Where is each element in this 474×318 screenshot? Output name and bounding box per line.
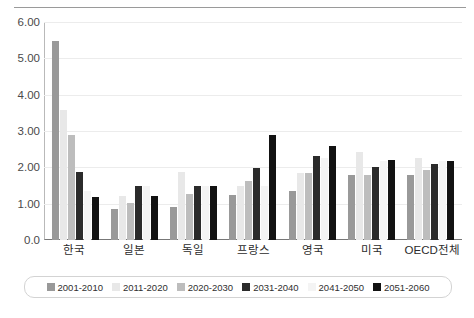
bar[interactable] — [76, 172, 83, 240]
legend-item[interactable]: 2001-2010 — [47, 282, 103, 293]
bar[interactable] — [407, 175, 414, 240]
bar[interactable] — [237, 186, 244, 241]
bar[interactable] — [329, 146, 336, 240]
bar[interactable] — [423, 170, 430, 240]
bar-groups — [44, 22, 462, 240]
plot-area — [44, 22, 462, 240]
x-axis-tick-label: 일본 — [104, 241, 164, 261]
bar-group — [164, 22, 223, 240]
legend-item[interactable]: 2041-2050 — [308, 282, 364, 293]
legend-label: 2011-2020 — [123, 282, 168, 293]
bar[interactable] — [245, 181, 252, 240]
legend-swatch-icon — [373, 283, 381, 291]
bar-group — [223, 22, 282, 240]
bar[interactable] — [229, 195, 236, 240]
x-axis: 한국일본독일프랑스영국미국OECD전체 — [44, 241, 462, 261]
legend-item[interactable]: 2051-2060 — [373, 282, 429, 293]
top-divider-rule — [14, 7, 466, 8]
x-axis-tick-label: 영국 — [283, 241, 343, 261]
bar[interactable] — [364, 175, 371, 240]
legend-swatch-icon — [47, 283, 55, 291]
legend-label: 2041-2050 — [319, 282, 364, 293]
bar[interactable] — [170, 207, 177, 240]
bar[interactable] — [447, 161, 454, 240]
bar-group — [283, 22, 342, 240]
bar-group — [401, 22, 460, 240]
bar[interactable] — [151, 196, 158, 240]
bar[interactable] — [92, 197, 99, 240]
bar[interactable] — [289, 191, 296, 240]
bar[interactable] — [261, 186, 268, 241]
bar[interactable] — [135, 186, 142, 241]
x-axis-tick-label: 프랑스 — [223, 241, 283, 261]
chart-legend: 2001-20102011-20202020-20302031-20402041… — [24, 276, 452, 298]
legend-label: 2051-2060 — [384, 282, 429, 293]
bar-group — [342, 22, 401, 240]
y-axis-tick-label: 2.00 — [18, 161, 40, 173]
x-axis-tick-label: OECD전체 — [402, 241, 462, 261]
bar[interactable] — [84, 191, 91, 240]
bar[interactable] — [253, 168, 260, 240]
legend-swatch-icon — [308, 283, 316, 291]
bar[interactable] — [439, 161, 446, 240]
y-axis-tick-label: 3.00 — [18, 125, 40, 137]
y-axis: 6.005.004.003.002.001.000.0 — [0, 22, 40, 240]
bar[interactable] — [210, 186, 217, 241]
y-axis-tick-label: 6.00 — [18, 16, 40, 28]
bar[interactable] — [194, 186, 201, 241]
chart-root: 6.005.004.003.002.001.000.0 한국일본독일프랑스영국미… — [0, 0, 474, 318]
bar[interactable] — [431, 164, 438, 240]
bar[interactable] — [372, 167, 379, 240]
bar[interactable] — [127, 203, 134, 240]
y-axis-tick-label: 5.00 — [18, 52, 40, 64]
bar[interactable] — [415, 158, 422, 240]
x-axis-tick-label: 독일 — [163, 241, 223, 261]
bar[interactable] — [60, 110, 67, 240]
bar-group — [105, 22, 164, 240]
bar[interactable] — [313, 156, 320, 240]
x-axis-tick-label: 미국 — [343, 241, 403, 261]
bar[interactable] — [388, 160, 395, 240]
y-axis-tick-label: 1.00 — [18, 198, 40, 210]
legend-label: 2020-2030 — [188, 282, 233, 293]
bar[interactable] — [269, 135, 276, 240]
legend-item[interactable]: 2031-2040 — [242, 282, 298, 293]
bar[interactable] — [380, 161, 387, 240]
legend-label: 2001-2010 — [58, 282, 103, 293]
bar-group — [46, 22, 105, 240]
legend-item[interactable]: 2011-2020 — [112, 282, 168, 293]
y-axis-tick-label: 0.0 — [24, 234, 40, 246]
bar[interactable] — [52, 41, 59, 240]
legend-item[interactable]: 2020-2030 — [177, 282, 233, 293]
bar[interactable] — [202, 186, 209, 241]
bar[interactable] — [297, 173, 304, 240]
x-axis-tick-label: 한국 — [44, 241, 104, 261]
bar[interactable] — [321, 158, 328, 240]
legend-label: 2031-2040 — [253, 282, 298, 293]
legend-swatch-icon — [112, 283, 120, 291]
bar[interactable] — [119, 196, 126, 240]
bar[interactable] — [186, 194, 193, 241]
bar[interactable] — [143, 186, 150, 241]
bar[interactable] — [305, 173, 312, 240]
legend-swatch-icon — [242, 283, 250, 291]
legend-swatch-icon — [177, 283, 185, 291]
y-axis-tick-label: 4.00 — [18, 89, 40, 101]
bar[interactable] — [356, 152, 363, 240]
bar[interactable] — [68, 135, 75, 240]
bar[interactable] — [178, 172, 185, 240]
bar[interactable] — [111, 209, 118, 240]
bar[interactable] — [348, 175, 355, 240]
